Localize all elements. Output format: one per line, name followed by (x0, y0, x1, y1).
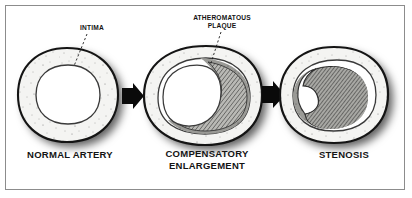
stage-label-stenosis: STENOSIS (282, 149, 406, 161)
stage-stenosis (280, 47, 388, 143)
stage-label-normal-artery: NORMAL ARTERY (6, 149, 134, 161)
compensatory-lumen (163, 65, 221, 126)
callout-label-intima: INTIMA (62, 24, 122, 32)
stage-normal-artery (18, 48, 118, 142)
normal-artery-lumen (36, 65, 100, 124)
stage-label-compensatory-enlargement: COMPENSATORY ENLARGEMENT (135, 148, 279, 171)
callout-label-atheromatous-plaque: ATHEROMATOUS PLAQUE (176, 14, 268, 30)
stage-compensatory-enlargement (144, 46, 262, 145)
artery-progression-figure: INTIMA ATHEROMATOUS PLAQUE NORMAL ARTERY… (0, 0, 412, 198)
arrow-1 (122, 83, 144, 109)
